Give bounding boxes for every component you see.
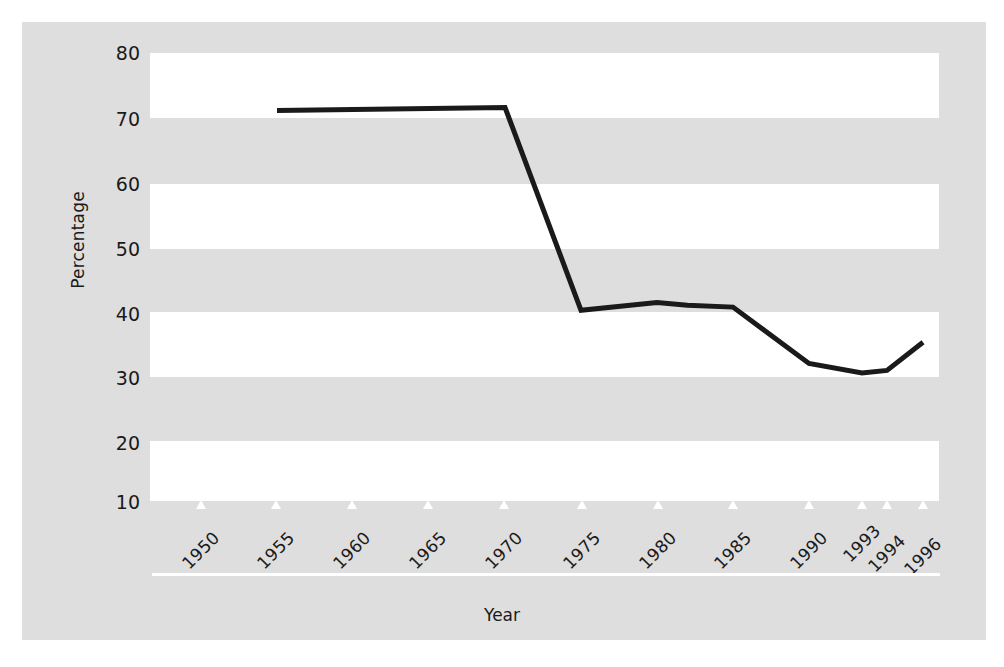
x-tick-mark [653, 500, 663, 509]
x-axis-title: Year [0, 605, 1004, 625]
x-tick-label: 1975 [559, 527, 605, 573]
chart-figure: 80 70 60 50 40 30 20 10 Percentage 1950 … [0, 0, 1004, 667]
x-axis-rule [152, 573, 940, 576]
x-tick-mark [804, 500, 814, 509]
x-tick-mark [196, 500, 206, 509]
x-tick-label: 1990 [786, 527, 832, 573]
x-tick-label: 1960 [329, 527, 375, 573]
x-tick-mark [423, 500, 433, 509]
x-tick-mark [857, 500, 867, 509]
x-tick-label: 1955 [253, 527, 299, 573]
x-tick-label: 1970 [481, 527, 527, 573]
x-tick-label: 1965 [405, 527, 451, 573]
x-tick-mark [728, 500, 738, 509]
x-tick-mark [882, 500, 892, 509]
x-tick-label: 1950 [178, 527, 224, 573]
x-tick-label: 1980 [635, 527, 681, 573]
x-tick-mark [499, 500, 509, 509]
x-tick-mark [271, 500, 281, 509]
x-tick-mark [347, 500, 357, 509]
x-axis-ticks: 1950 1955 1960 1965 1970 1975 1980 1985 … [0, 0, 1004, 667]
x-tick-label: 1985 [710, 527, 756, 573]
x-tick-mark [577, 500, 587, 509]
x-tick-mark [918, 500, 928, 509]
